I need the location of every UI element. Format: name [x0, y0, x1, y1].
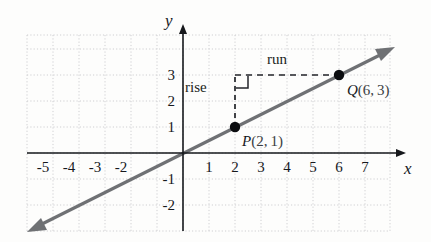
grid-lines: [27, 35, 390, 231]
rise-label: rise: [185, 80, 207, 95]
point-p-name: P: [242, 133, 251, 149]
point-q-name: Q: [347, 82, 358, 98]
run-label: run: [267, 52, 287, 67]
x-tick-label-2: 2: [226, 160, 244, 175]
point-p-label: P(2, 1): [242, 134, 283, 149]
y-tick-label-2: 2: [158, 94, 175, 109]
point-p-marker: [230, 122, 240, 132]
right-angle-marker: [236, 76, 248, 88]
point-q-label: Q(6, 3): [347, 83, 390, 98]
line-arrowhead-lower-left: [27, 218, 47, 232]
point-q-marker: [334, 70, 344, 80]
x-tick-label-6: 6: [330, 160, 348, 175]
y-axis-arrowhead: [179, 24, 187, 34]
x-tick-label--4: -4: [59, 160, 79, 175]
x-tick-label-4: 4: [278, 160, 296, 175]
y-tick-label-1: 1: [158, 120, 175, 135]
x-tick-label-7: 7: [356, 160, 374, 175]
x-tick-label--2: -2: [111, 160, 131, 175]
x-tick-label-1: 1: [200, 160, 218, 175]
point-p-coords: (2, 1): [251, 133, 283, 149]
x-tick-label-5: 5: [304, 160, 322, 175]
x-axis-arrowhead: [396, 149, 406, 157]
y-axis-label: y: [165, 12, 173, 29]
x-tick-label--5: -5: [33, 160, 53, 175]
coordinate-plane-svg: [0, 0, 431, 242]
graph-figure: -5 -4 -3 -2 1 2 3 4 5 6 7 3 2 1 -1 -2 y …: [0, 0, 431, 242]
y-tick-label-3: 3: [158, 68, 175, 83]
y-tick-label--1: -1: [152, 172, 175, 187]
x-tick-label-3: 3: [252, 160, 270, 175]
y-tick-label--2: -2: [152, 198, 175, 213]
x-tick-label--3: -3: [85, 160, 105, 175]
line-arrowhead-upper-right: [375, 47, 395, 61]
point-q-coords: (6, 3): [358, 82, 390, 98]
x-axis-label: x: [404, 160, 412, 177]
